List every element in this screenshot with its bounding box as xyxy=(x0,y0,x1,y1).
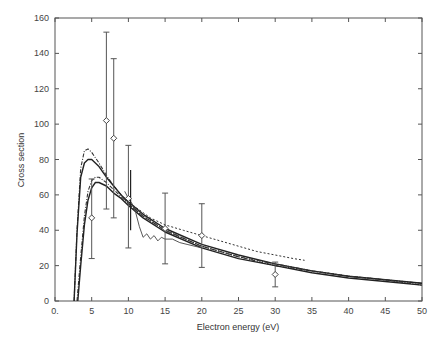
data-point xyxy=(162,193,168,264)
x-tick-label: 10 xyxy=(123,306,133,316)
x-tick-label: 35 xyxy=(307,306,317,316)
diamond-marker-icon xyxy=(272,271,278,277)
y-tick-label: 0 xyxy=(44,296,49,306)
y-tick-label: 120 xyxy=(34,84,49,94)
experimental-points xyxy=(89,32,279,287)
y-tick-label: 60 xyxy=(39,190,49,200)
x-tick-label: 15 xyxy=(160,306,170,316)
y-tick-label: 40 xyxy=(39,225,49,235)
y-tick-label: 140 xyxy=(34,48,49,58)
diamond-marker-icon xyxy=(89,215,95,221)
model-curves xyxy=(74,149,422,301)
y-axis-label: Cross section xyxy=(16,133,26,188)
x-tick-label: 25 xyxy=(233,306,243,316)
x-tick-label: 50 xyxy=(417,306,427,316)
diamond-marker-icon xyxy=(199,233,205,239)
x-axis-ticks: 0.5101520253035404550 xyxy=(51,18,427,316)
data-point xyxy=(89,179,95,259)
y-tick-label: 160 xyxy=(34,13,49,23)
x-tick-label: 20 xyxy=(197,306,207,316)
data-point xyxy=(199,204,205,268)
x-tick-label: 45 xyxy=(380,306,390,316)
x-axis-label: Electron energy (eV) xyxy=(197,322,280,332)
y-tick-label: 100 xyxy=(34,119,49,129)
x-tick-label: 0. xyxy=(51,306,59,316)
x-tick-label: 30 xyxy=(270,306,280,316)
data-point xyxy=(103,32,109,209)
cross-section-chart: 0.5101520253035404550 020406080100120140… xyxy=(0,0,442,348)
x-tick-label: 5 xyxy=(89,306,94,316)
y-tick-label: 80 xyxy=(39,155,49,165)
diamond-marker-icon xyxy=(103,118,109,124)
x-tick-label: 40 xyxy=(344,306,354,316)
diamond-marker-icon xyxy=(111,135,117,141)
y-tick-label: 20 xyxy=(39,261,49,271)
